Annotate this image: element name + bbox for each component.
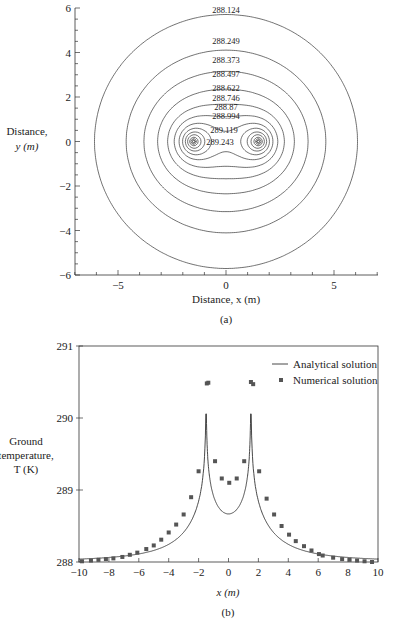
numerical-marker (280, 524, 284, 528)
legend-analytical: Analytical solution (293, 358, 378, 370)
x-tick-label-b: −2 (193, 566, 205, 578)
figure: 288.124288.249288.373288.497288.622288.7… (0, 0, 394, 629)
analytical-solution-line (79, 414, 378, 559)
x-tick-label-b: 4 (286, 566, 292, 578)
legend: Analytical solution Numerical solution (272, 358, 378, 386)
numerical-marker (331, 556, 335, 560)
x-tick-label-a: 0 (223, 279, 229, 291)
numerical-marker (213, 459, 217, 463)
x-tick-label-b: 6 (315, 566, 321, 578)
contour-label: 288.497 (212, 69, 240, 79)
numerical-marker (370, 560, 374, 564)
x-axis-label-a: Distance, x (m) (192, 293, 260, 306)
heat-source-marker (257, 140, 259, 142)
numerical-marker (111, 556, 115, 560)
numerical-marker (317, 552, 321, 556)
contour-label: 288.622 (212, 83, 240, 93)
y-tick-label-a: 6 (66, 2, 72, 14)
caption-a: (a) (220, 313, 233, 326)
numerical-marker (242, 459, 246, 463)
x-tick-label-b: −6 (133, 566, 145, 578)
numerical-marker (302, 544, 306, 548)
y-axis-label-a-line1: Distance, (6, 125, 47, 137)
contour-label: 289.243 (206, 137, 234, 147)
numerical-marker (135, 551, 139, 555)
x-tick-label-b: 10 (373, 566, 385, 578)
numerical-marker (220, 476, 224, 480)
y-tick-label-a: −4 (59, 225, 71, 237)
numerical-marker (89, 559, 93, 563)
y-axis-label-b-line1: Ground (9, 435, 43, 447)
numerical-marker (80, 559, 84, 563)
x-tick-label-b: −4 (163, 566, 175, 578)
numerical-marker (355, 559, 359, 563)
x-tick-label-a: 5 (331, 279, 337, 291)
contour-label: 288.249 (212, 36, 240, 46)
legend-numerical: Numerical solution (293, 374, 378, 386)
contour-plot-panel: 288.124288.249288.373288.497288.622288.7… (6, 2, 378, 326)
numerical-marker (174, 523, 178, 527)
x-tick-label-b: 2 (256, 566, 262, 578)
caption-b: (b) (222, 606, 235, 619)
contour-label: 288.994 (212, 111, 240, 121)
numerical-marker (120, 555, 124, 559)
numerical-marker (152, 543, 156, 547)
numerical-marker (167, 530, 171, 534)
contour-label: 289.119 (210, 125, 237, 135)
numerical-marker (128, 553, 132, 557)
numerical-marker (309, 548, 313, 552)
contour-label: 288.373 (212, 55, 240, 65)
y-tick-label-b: 289 (57, 484, 74, 496)
numerical-marker (159, 538, 163, 542)
y-axis-label-b-line2: temperature, (0, 449, 54, 461)
numerical-marker (197, 469, 201, 473)
numerical-solution-markers (80, 380, 374, 564)
y-tick-label-a: −2 (59, 180, 71, 192)
numerical-marker (227, 481, 231, 485)
x-tick-label-a: −5 (112, 279, 124, 291)
numerical-marker (206, 381, 210, 385)
y-tick-label-a: −6 (59, 269, 71, 281)
y-tick-label-b: 291 (57, 340, 74, 352)
y-tick-label-a: 2 (66, 91, 72, 103)
numerical-marker (287, 533, 291, 537)
y-tick-label-a: 0 (66, 136, 72, 148)
numerical-marker (272, 512, 276, 516)
numerical-marker (144, 547, 148, 551)
x-tick-label-b: −8 (103, 566, 115, 578)
temperature-profile-panel: 288289290291−10−8−6−4−20246810 Analytica… (0, 340, 384, 619)
numerical-marker (182, 512, 186, 516)
legend-square-swatch (279, 378, 283, 382)
contour-labels: 288.124288.249288.373288.497288.622288.7… (206, 5, 240, 147)
x-axis-label-b: x (m) (216, 586, 240, 599)
y-axis-label-a-line2: y (m) (15, 140, 39, 153)
x-tick-label-b: −10 (70, 566, 88, 578)
numerical-marker (340, 557, 344, 561)
numerical-marker (235, 476, 239, 480)
x-tick-label-b: 0 (226, 566, 232, 578)
y-tick-label-b: 290 (57, 412, 74, 424)
heat-source-marker (192, 140, 194, 142)
numerical-marker (321, 554, 325, 558)
numerical-marker (363, 559, 367, 563)
numerical-marker (265, 497, 269, 501)
numerical-marker (96, 558, 100, 562)
y-tick-label-a: 4 (66, 47, 72, 59)
contour-label: 288.124 (212, 5, 240, 15)
numerical-marker (189, 495, 193, 499)
numerical-marker (348, 558, 352, 562)
y-axis-label-b-line3: T (K) (14, 463, 39, 476)
numerical-marker (257, 469, 261, 473)
x-tick-label-b: 8 (345, 566, 351, 578)
numerical-marker (294, 539, 298, 543)
numerical-marker (251, 382, 255, 386)
numerical-marker (104, 557, 108, 561)
